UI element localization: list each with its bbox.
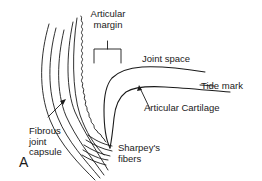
label-fibrous-line1: Fibrous <box>29 126 62 137</box>
label-sharpeys-line1: Sharpey's <box>118 143 160 154</box>
label-sharpeys-fibers: Sharpey's fibers <box>118 143 160 164</box>
fibrous-capsule-leader <box>48 102 63 117</box>
figure-letter: A <box>19 154 28 170</box>
label-articular-margin-line1: Articular <box>88 9 128 20</box>
label-articular-margin-line2: margin <box>88 20 128 31</box>
label-joint-space: Joint space <box>142 54 190 65</box>
articular-margin-bracket <box>94 49 121 63</box>
label-articular-cartilage: Articular Cartilage <box>144 103 220 114</box>
label-fibrous-joint-capsule: Fibrous joint capsule <box>29 126 62 158</box>
joint-anatomy-diagram: Articular margin Joint space Tide mark A… <box>0 0 262 181</box>
label-sharpeys-line2: fibers <box>118 154 160 165</box>
label-tide-mark: Tide mark <box>201 81 243 92</box>
label-fibrous-line3: capsule <box>29 147 62 158</box>
cartilage-inner <box>110 87 230 148</box>
wavy-bone-margin <box>81 16 106 142</box>
inner-bone-line <box>74 18 104 155</box>
label-articular-margin: Articular margin <box>88 9 128 30</box>
